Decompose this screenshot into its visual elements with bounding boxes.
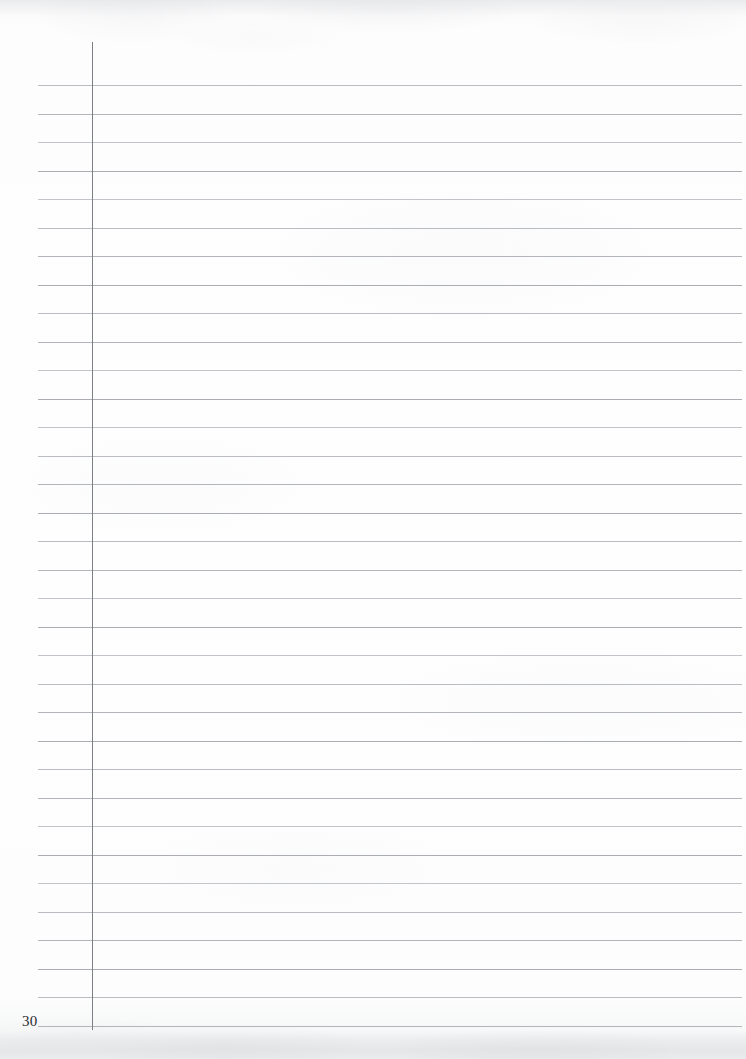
- scanned-page: 30: [0, 0, 746, 1059]
- page-number: 30: [22, 1014, 37, 1029]
- writing-area[interactable]: [92, 85, 742, 1030]
